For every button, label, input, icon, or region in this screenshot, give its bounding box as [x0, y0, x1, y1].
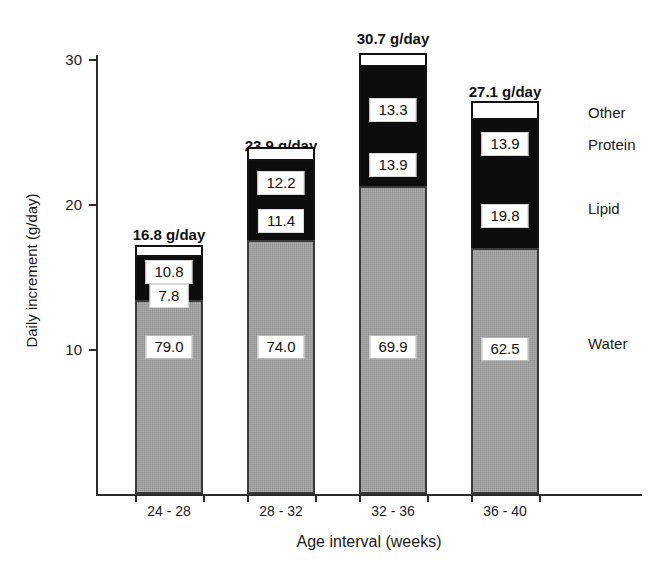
x-tick-mark-4a [471, 496, 473, 502]
y-tick-label-30: 30 [48, 52, 82, 67]
bar-36-40: 13.9 19.8 62.5 [471, 101, 539, 494]
bar-28-32: 12.2 11.4 74.0 [247, 147, 315, 494]
value-label-lipid-32-36: 13.9 [369, 153, 416, 177]
segment-other-28-32 [247, 147, 315, 161]
y-tick-mark-30 [89, 59, 98, 61]
stacked-bar-chart: 30 20 10 Daily increment (g/day) 24 - 28… [0, 0, 669, 569]
legend-item-lipid: Lipid [588, 200, 620, 217]
bar-total-label-36-40: 27.1 g/day [435, 83, 575, 100]
value-label-water-32-36: 69.9 [369, 335, 416, 359]
value-label-lipid-24-28: 7.8 [150, 284, 189, 308]
x-tick-mark-1a [135, 496, 137, 502]
value-label-lipid-36-40: 19.8 [481, 204, 528, 228]
segment-other-32-36 [359, 53, 427, 67]
y-tick-mark-20 [89, 204, 98, 206]
value-label-water-28-32: 74.0 [257, 335, 304, 359]
x-tick-mark-3b [427, 496, 429, 502]
x-category-label-32-36: 32 - 36 [338, 503, 448, 519]
value-label-water-36-40: 62.5 [481, 337, 528, 361]
segment-water-24-28 [135, 300, 203, 494]
bar-total-label-32-36: 30.7 g/day [323, 30, 463, 47]
bar-24-28: 10.8 7.8 79.0 [135, 245, 203, 494]
segment-water-28-32 [247, 240, 315, 494]
value-label-water-24-28: 79.0 [145, 335, 192, 359]
legend-item-other: Other [588, 104, 626, 121]
value-label-protein-36-40: 13.9 [481, 132, 528, 156]
bar-total-label-24-28: 16.8 g/day [99, 226, 239, 243]
value-label-protein-28-32: 12.2 [257, 171, 304, 195]
segment-other-36-40 [471, 101, 539, 120]
x-category-label-28-32: 28 - 32 [226, 503, 336, 519]
y-axis-title: Daily increment (g/day) [23, 156, 40, 386]
x-tick-mark-1b [203, 496, 205, 502]
value-label-protein-24-28: 10.8 [145, 260, 192, 284]
x-category-label-24-28: 24 - 28 [114, 503, 224, 519]
x-tick-mark-2a [247, 496, 249, 502]
y-tick-label-20: 20 [48, 197, 82, 212]
y-axis-line [96, 55, 98, 496]
bar-32-36: 13.3 13.9 69.9 [359, 53, 427, 494]
segment-water-36-40 [471, 248, 539, 494]
legend-item-water: Water [588, 335, 627, 352]
value-label-protein-32-36: 13.3 [369, 98, 416, 122]
x-tick-mark-3a [359, 496, 361, 502]
x-axis-title: Age interval (weeks) [96, 533, 642, 551]
value-label-lipid-28-32: 11.4 [258, 209, 304, 233]
legend-item-protein: Protein [588, 136, 636, 153]
x-category-label-36-40: 36 - 40 [450, 503, 560, 519]
y-tick-mark-10 [89, 349, 98, 351]
x-tick-mark-4b [539, 496, 541, 502]
y-tick-label-10: 10 [48, 342, 82, 357]
x-tick-mark-2b [315, 496, 317, 502]
segment-other-24-28 [135, 245, 203, 257]
x-axis-line [96, 494, 642, 496]
